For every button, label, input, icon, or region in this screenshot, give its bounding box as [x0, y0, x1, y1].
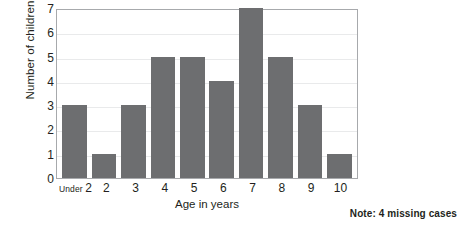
bar	[209, 81, 234, 178]
x-tick-label: 7	[238, 181, 267, 197]
bar	[121, 105, 146, 178]
bar-slot	[266, 10, 295, 178]
bar-slot	[207, 10, 236, 178]
x-tick-label: 2	[92, 181, 121, 197]
y-axis-title: Number of children	[24, 0, 36, 130]
y-tick-label: 2	[36, 124, 54, 136]
x-axis-title: Age in years	[56, 198, 358, 210]
bar	[92, 154, 117, 178]
x-tick-label-value: 2	[85, 181, 92, 195]
x-axis-tick-labels: Under 22345678910	[56, 181, 358, 197]
y-tick-label: 1	[36, 149, 54, 161]
y-axis-tick-labels: 01234567	[36, 0, 54, 190]
bar	[180, 57, 205, 178]
plot-area	[56, 9, 358, 179]
bar	[62, 105, 87, 178]
y-tick-label: 6	[36, 27, 54, 39]
bar-slot	[325, 10, 354, 178]
bar	[268, 57, 293, 178]
bar-slot	[89, 10, 118, 178]
y-tick-label: 7	[36, 3, 54, 15]
x-tick-label: 9	[297, 181, 326, 197]
bar-slot	[295, 10, 324, 178]
bar-slot	[60, 10, 89, 178]
x-tick-label-prefix: Under	[59, 184, 85, 194]
bar	[151, 57, 176, 178]
bar-series	[57, 10, 357, 178]
x-tick-label: 3	[121, 181, 150, 197]
bar-slot	[178, 10, 207, 178]
x-tick-label: 8	[267, 181, 296, 197]
bar-slot	[148, 10, 177, 178]
bar	[298, 105, 323, 178]
y-tick-label: 4	[36, 76, 54, 88]
x-tick-label: 5	[180, 181, 209, 197]
chart-footnote: Note: 4 missing cases	[350, 208, 457, 219]
y-tick-label: 0	[36, 173, 54, 185]
y-tick-label: 5	[36, 52, 54, 64]
x-tick-label: 10	[326, 181, 355, 197]
bar-chart-figure: Number of children 01234567 Under 223456…	[0, 0, 465, 231]
x-tick-label: 4	[150, 181, 179, 197]
x-tick-label: 6	[209, 181, 238, 197]
bar-slot	[236, 10, 265, 178]
x-tick-label: Under 2	[59, 181, 92, 197]
bar	[239, 8, 264, 178]
bar-slot	[119, 10, 148, 178]
bar	[327, 154, 352, 178]
y-tick-label: 3	[36, 100, 54, 112]
